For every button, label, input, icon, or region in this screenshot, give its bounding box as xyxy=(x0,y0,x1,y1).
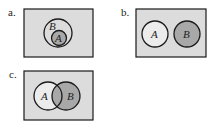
set-b-label-a: B xyxy=(49,20,56,32)
venn-panel-a: B A xyxy=(24,9,93,57)
venn-panel-c: A B xyxy=(24,71,93,120)
set-b-label-b: B xyxy=(183,28,190,40)
venn-diagrams: B A A B A B xyxy=(0,0,220,130)
set-a-label-b: A xyxy=(150,28,158,40)
set-a-label-c: A xyxy=(40,90,48,102)
set-b-label-c: B xyxy=(67,90,74,102)
venn-panel-b: A B xyxy=(136,9,206,57)
set-a-label-a: A xyxy=(54,32,62,44)
